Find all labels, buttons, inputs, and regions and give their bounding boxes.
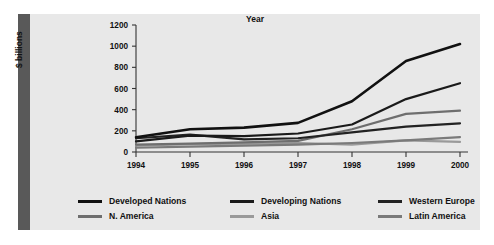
line-chart: 0200400600800100012001994199519961997199… — [30, 14, 480, 184]
legend-swatch-icon — [78, 200, 102, 203]
legend-item[interactable]: Asia — [230, 211, 378, 221]
legend-label: Western Europe — [409, 196, 475, 206]
series-line — [136, 83, 460, 141]
legend-swatch-icon — [230, 215, 254, 218]
y-tick-label: 400 — [114, 106, 128, 115]
y-tick-label: 200 — [114, 127, 128, 136]
legend-label: Latin America — [409, 211, 466, 221]
y-tick-label: 600 — [114, 85, 128, 94]
x-tick-label: 2000 — [451, 161, 470, 170]
legend-label: Asia — [261, 211, 279, 221]
y-tick-label: 1000 — [110, 42, 129, 51]
y-axis-label: $ billions — [14, 31, 24, 68]
chart-legend: Developed NationsDeveloping NationsWeste… — [78, 196, 470, 226]
legend-swatch-icon — [378, 200, 402, 203]
legend-item[interactable]: Developed Nations — [78, 196, 230, 206]
plot-area-wrapper: $ billions 02004006008001000120019941995… — [30, 14, 480, 230]
legend-swatch-icon — [230, 200, 254, 203]
x-tick-label: 1998 — [343, 161, 362, 170]
legend-label: Developed Nations — [109, 196, 186, 206]
x-tick-label: 1999 — [397, 161, 416, 170]
y-tick-label: 0 — [123, 148, 128, 157]
figure-panel: $ billions 02004006008001000120019941995… — [18, 14, 480, 230]
y-tick-label: 800 — [114, 63, 128, 72]
x-tick-label: 1995 — [181, 161, 200, 170]
legend-swatch-icon — [378, 215, 402, 218]
legend-item[interactable]: Latin America — [378, 211, 470, 221]
legend-row: Developed NationsDeveloping NationsWeste… — [78, 196, 470, 206]
x-tick-label: 1994 — [127, 161, 146, 170]
legend-label: Developing Nations — [261, 196, 341, 206]
legend-row: N. AmericaAsiaLatin America — [78, 211, 470, 221]
legend-item[interactable]: Developing Nations — [230, 196, 378, 206]
legend-item[interactable]: Western Europe — [378, 196, 470, 206]
series-line — [136, 44, 460, 137]
legend-item[interactable]: N. America — [78, 211, 230, 221]
legend-swatch-icon — [78, 215, 102, 218]
y-tick-label: 1200 — [110, 21, 129, 30]
legend-label: N. America — [109, 211, 154, 221]
x-tick-label: 1997 — [289, 161, 308, 170]
x-tick-label: 1996 — [235, 161, 254, 170]
